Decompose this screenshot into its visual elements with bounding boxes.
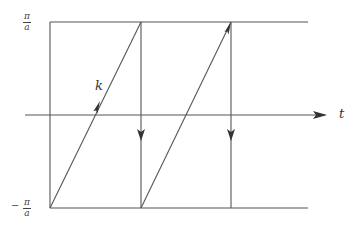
bloch-oscillation-diagram	[0, 0, 361, 225]
lower-bound-denominator: a	[24, 209, 29, 218]
lower-bound-numerator: π	[24, 198, 30, 207]
upper-bound-numerator: π	[24, 12, 30, 21]
time-axis-label: t	[339, 106, 344, 121]
lower-bound-label: π a	[23, 198, 31, 218]
wavevector-label: k	[95, 78, 103, 93]
upper-bound-denominator: a	[24, 23, 29, 32]
lower-bound-sign: −	[11, 200, 19, 211]
upper-bound-label: π a	[23, 12, 31, 32]
